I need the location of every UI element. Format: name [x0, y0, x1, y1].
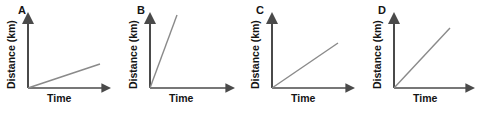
data-line-b — [150, 15, 177, 88]
graph-panel-d: D Time Distance (km) — [366, 0, 487, 116]
panel-letter-a: A — [18, 5, 26, 16]
y-axis-label-a: Distance (km) — [6, 20, 17, 89]
graph-panel-a: A Time Distance (km) — [0, 0, 122, 116]
data-line-c — [272, 43, 338, 88]
y-axis-label-c: Distance (km) — [250, 20, 261, 89]
y-axis-label-d: Distance (km) — [372, 20, 383, 89]
four-panel-distance-time-figure: A Time Distance (km) B Time Distance (km… — [0, 0, 487, 116]
panel-letter-b: B — [137, 5, 145, 16]
x-axis-label-b: Time — [169, 93, 193, 104]
data-line-d — [394, 28, 450, 88]
x-axis-label-a: Time — [47, 93, 71, 104]
y-axis-label-b: Distance (km) — [128, 20, 139, 89]
data-line-a — [28, 64, 100, 88]
panel-letter-d: D — [378, 5, 386, 16]
graph-panel-c: C Time Distance (km) — [244, 0, 366, 116]
x-axis-label-d: Time — [413, 93, 437, 104]
graph-panel-b: B Time Distance (km) — [122, 0, 244, 116]
panel-letter-c: C — [256, 5, 264, 16]
x-axis-label-c: Time — [291, 93, 315, 104]
